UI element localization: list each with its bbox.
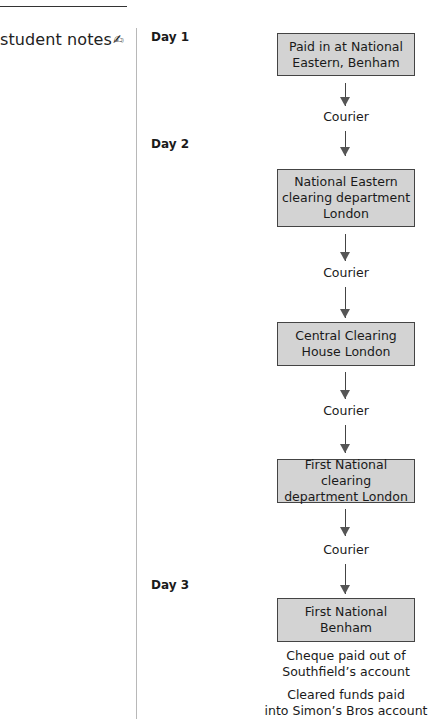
step-text-line: Eastern, Benham <box>292 55 399 71</box>
transfer-label-courier: Courier <box>246 542 428 558</box>
outcome-text-line: Southfield’s account <box>246 664 428 680</box>
outcome-cheque-paid-out: Cheque paid out of Southfield’s account <box>246 648 428 680</box>
day-3-label: Day 3 <box>151 578 189 592</box>
transfer-label-courier: Courier <box>246 403 428 419</box>
margin-divider <box>136 28 137 719</box>
step-text-line: department London <box>284 489 408 505</box>
step-box-first-national-benham: First National Benham <box>277 598 415 642</box>
student-notes-text: student notes <box>0 30 112 49</box>
step-text-line: First National <box>305 604 387 620</box>
outcome-text-line: Cheque paid out of <box>246 648 428 664</box>
header-rule <box>0 6 127 7</box>
flow-arrow <box>340 564 351 594</box>
flow-arrow <box>340 509 351 536</box>
flow-arrow <box>340 234 351 261</box>
flow-arrow <box>340 287 351 318</box>
step-text-line: Central Clearing <box>295 328 397 344</box>
step-text-line: Paid in at National <box>289 39 403 55</box>
step-text-line: House London <box>302 344 391 360</box>
step-text-line: National Eastern <box>294 174 398 190</box>
flow-arrow <box>340 372 351 399</box>
outcome-cleared-funds-paid: Cleared funds paid into Simon’s Bros acc… <box>246 687 428 719</box>
day-2-label: Day 2 <box>151 137 189 151</box>
flow-arrow <box>340 425 351 453</box>
step-box-central-clearing-house: Central Clearing House London <box>277 322 415 366</box>
step-text-line: clearing department <box>282 190 410 206</box>
flow-arrow <box>340 83 351 106</box>
transfer-label-courier: Courier <box>246 109 428 125</box>
step-box-first-national-clearing: First National clearing department Londo… <box>277 459 415 503</box>
step-box-national-eastern-clearing: National Eastern clearing department Lon… <box>277 169 415 227</box>
transfer-label-courier: Courier <box>246 265 428 281</box>
pen-writing-icon: ✍ <box>113 32 124 47</box>
student-notes-label: student notes✍ <box>0 30 124 49</box>
step-text-line: Benham <box>320 620 372 636</box>
day-1-label: Day 1 <box>151 30 189 44</box>
outcome-text-line: into Simon’s Bros account <box>246 703 428 719</box>
step-text-line: First National clearing <box>278 457 414 489</box>
flow-arrow <box>340 131 351 156</box>
step-box-paid-in-national-eastern: Paid in at National Eastern, Benham <box>277 33 415 76</box>
outcome-text-line: Cleared funds paid <box>246 687 428 703</box>
step-text-line: London <box>323 206 369 222</box>
